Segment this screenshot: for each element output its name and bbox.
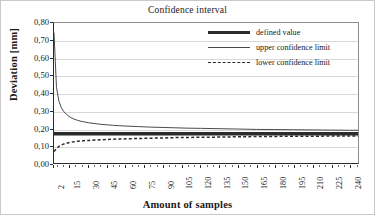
y-axis-title: Deviation [mm] — [8, 0, 19, 135]
x-tick-mark — [182, 165, 183, 168]
legend-swatch-defined-value — [206, 28, 252, 38]
x-tick-mark — [294, 165, 295, 168]
x-tick-label: 60 — [129, 181, 138, 189]
x-tick-mark-minor — [94, 165, 95, 167]
x-tick-mark-minor — [288, 165, 289, 167]
legend-swatch-lower-confidence-limit — [206, 58, 252, 68]
x-tick-label: 225 — [335, 177, 344, 189]
legend-swatch-upper-confidence-limit — [206, 43, 252, 53]
x-tick-mark — [107, 165, 108, 168]
legend-label-lower-confidence-limit: lower confidence limit — [256, 58, 330, 67]
x-tick-mark-minor — [325, 165, 326, 167]
y-tick-label: 0,10 — [1, 141, 49, 151]
y-tick-label: 0,00 — [1, 159, 49, 169]
chart-legend: defined value upper confidence limit low… — [206, 25, 356, 70]
legend-item-lower-confidence-limit: lower confidence limit — [206, 55, 356, 70]
x-tick-mark — [53, 165, 54, 168]
legend-item-upper-confidence-limit: upper confidence limit — [206, 40, 356, 55]
x-tick-mark — [238, 165, 239, 168]
x-tick-label: 75 — [148, 181, 157, 189]
x-tick-mark-minor — [63, 165, 64, 167]
x-tick-mark-minor — [194, 165, 195, 167]
x-tick-label: 180 — [279, 177, 288, 189]
x-tick-mark-minor — [263, 165, 264, 167]
x-tick-mark — [144, 165, 145, 168]
x-tick-label: 210 — [316, 177, 325, 189]
x-tick-label: 15 — [73, 181, 82, 189]
x-tick-mark-minor — [344, 165, 345, 167]
x-tick-label: 165 — [260, 177, 269, 189]
x-tick-mark-minor — [113, 165, 114, 167]
x-tick-label: 120 — [204, 177, 213, 189]
x-tick-label: 45 — [110, 181, 119, 189]
x-tick-mark-minor — [150, 165, 151, 167]
x-tick-mark — [163, 165, 164, 168]
x-tick-mark — [257, 165, 258, 168]
x-tick-mark — [69, 165, 70, 168]
legend-label-defined-value: defined value — [256, 28, 300, 37]
x-tick-mark-minor — [119, 165, 120, 167]
x-tick-label: 90 — [167, 181, 176, 189]
x-tick-mark-minor — [300, 165, 301, 167]
x-tick-label: 240 — [354, 177, 363, 189]
x-tick-mark-minor — [57, 165, 58, 167]
x-tick-mark — [88, 165, 89, 168]
x-axis-title: Amount of samples — [1, 199, 374, 210]
x-tick-mark-minor — [188, 165, 189, 167]
x-tick-mark-minor — [175, 165, 176, 167]
x-tick-mark-minor — [250, 165, 251, 167]
x-tick-mark-minor — [157, 165, 158, 167]
x-tick-mark-minor — [213, 165, 214, 167]
x-tick-mark-minor — [132, 165, 133, 167]
x-tick-mark — [200, 165, 201, 168]
x-tick-label: 2 — [57, 185, 66, 189]
x-tick-mark — [313, 165, 314, 168]
x-tick-mark — [350, 165, 351, 168]
x-tick-mark-minor — [338, 165, 339, 167]
x-tick-label: 195 — [298, 177, 307, 189]
x-tick-mark-minor — [75, 165, 76, 167]
x-tick-label: 135 — [223, 177, 232, 189]
x-tick-mark-minor — [207, 165, 208, 167]
x-tick-mark-minor — [138, 165, 139, 167]
x-tick-mark-minor — [225, 165, 226, 167]
x-tick-mark-minor — [269, 165, 270, 167]
x-tick-mark-minor — [100, 165, 101, 167]
x-tick-mark — [125, 165, 126, 168]
x-tick-label: 150 — [241, 177, 250, 189]
x-tick-mark-minor — [232, 165, 233, 167]
series-line-lower-confidence-limit — [54, 136, 358, 152]
x-tick-mark-minor — [244, 165, 245, 167]
chart-title: Confidence interval — [1, 5, 374, 15]
x-tick-mark-minor — [282, 165, 283, 167]
x-tick-label: 30 — [92, 181, 101, 189]
x-tick-mark-minor — [307, 165, 308, 167]
x-tick-mark-minor — [169, 165, 170, 167]
legend-label-upper-confidence-limit: upper confidence limit — [256, 43, 330, 52]
x-tick-mark — [275, 165, 276, 168]
chart-frame: Confidence interval Deviation [mm] 0,800… — [0, 0, 375, 215]
x-tick-mark-minor — [319, 165, 320, 167]
x-tick-mark-minor — [357, 165, 358, 167]
x-tick-mark — [332, 165, 333, 168]
x-tick-mark — [219, 165, 220, 168]
x-tick-mark-minor — [82, 165, 83, 167]
legend-item-defined-value: defined value — [206, 25, 356, 40]
x-tick-label: 105 — [185, 177, 194, 189]
